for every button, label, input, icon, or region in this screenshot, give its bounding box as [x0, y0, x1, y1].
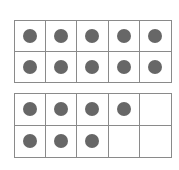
frame-cell: [109, 21, 140, 52]
frame-cell: [77, 126, 108, 158]
counter-dot-icon: [85, 60, 99, 74]
counter-dot-icon: [23, 134, 37, 148]
counter-dot-icon: [23, 102, 37, 116]
frame-cell: [140, 52, 171, 83]
counter-dot-icon: [85, 134, 99, 148]
frame-cell: [109, 126, 140, 158]
counter-dot-icon: [148, 29, 162, 43]
frame-cell: [15, 126, 46, 158]
frame-cell: [15, 21, 46, 52]
frame-cell: [109, 52, 140, 83]
ten-frame-2: [14, 93, 172, 158]
frame-cell: [77, 94, 108, 126]
counter-dot-icon: [117, 29, 131, 43]
frame-cell: [77, 21, 108, 52]
counter-dot-icon: [85, 29, 99, 43]
frame-cell: [15, 52, 46, 83]
counter-dot-icon: [117, 102, 131, 116]
frame-cell: [46, 21, 77, 52]
frame-cell: [46, 126, 77, 158]
counter-dot-icon: [117, 60, 131, 74]
counter-dot-icon: [54, 102, 68, 116]
frame-cell: [46, 94, 77, 126]
counter-dot-icon: [54, 29, 68, 43]
frame-cell: [140, 94, 171, 126]
counter-dot-icon: [54, 60, 68, 74]
counter-dot-icon: [85, 102, 99, 116]
frame-cell: [140, 21, 171, 52]
ten-frame-1: [14, 20, 172, 83]
frame-cell: [15, 94, 46, 126]
frame-cell: [140, 126, 171, 158]
frame-cell: [109, 94, 140, 126]
frame-cell: [46, 52, 77, 83]
counter-dot-icon: [148, 60, 162, 74]
counter-dot-icon: [23, 29, 37, 43]
frame-cell: [77, 52, 108, 83]
counter-dot-icon: [23, 60, 37, 74]
counter-dot-icon: [54, 134, 68, 148]
